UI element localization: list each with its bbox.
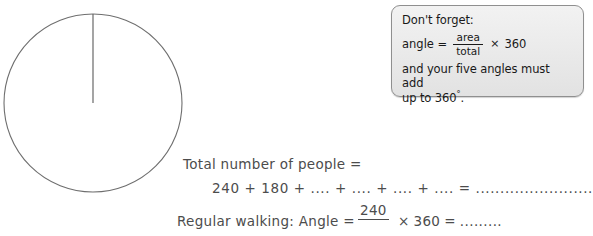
regular-walking-equals: = (444, 213, 456, 229)
hint-note-line-2: up to 360 (402, 91, 457, 105)
regular-walking-numerator: 240 (359, 204, 388, 219)
regular-walking-label: Regular walking: Angle = (177, 213, 355, 229)
hint-box-note: and your five angles must add up to 360°… (402, 62, 574, 105)
regular-walking-denominator (358, 220, 389, 233)
regular-walking-multiplier: 360 (414, 213, 441, 229)
angle-formula: angle = area total × 360 (402, 31, 574, 57)
total-people-label: Total number of people = (183, 156, 362, 172)
hint-box-title: Don't forget: (402, 13, 574, 27)
angle-formula-lhs: angle = (402, 37, 447, 51)
hint-box: Don't forget: angle = area total × 360 a… (391, 5, 584, 97)
sum-equation-line: 240 + 180 + .... + .... + .... + .... = … (212, 180, 593, 196)
pie-chart-area (0, 0, 200, 210)
angle-formula-denominator: total (454, 46, 482, 57)
angle-formula-fraction: area total (453, 32, 483, 57)
hint-note-line-1: and your five angles must add (402, 62, 550, 90)
angle-formula-multiplier: 360 (504, 37, 526, 51)
angle-formula-numerator: area (454, 32, 481, 43)
hint-note-end: . (460, 91, 464, 105)
multiply-operator-icon: × (490, 37, 499, 50)
regular-walking-operator: × (398, 213, 410, 229)
regular-walking-line: Regular walking: Angle = 240 × 360 = ...… (177, 207, 502, 236)
regular-walking-fraction: 240 (358, 204, 389, 233)
regular-walking-answer-blank: ......... (460, 213, 502, 229)
pie-chart-svg (0, 0, 200, 210)
worksheet-page: Don't forget: angle = area total × 360 a… (0, 0, 591, 231)
